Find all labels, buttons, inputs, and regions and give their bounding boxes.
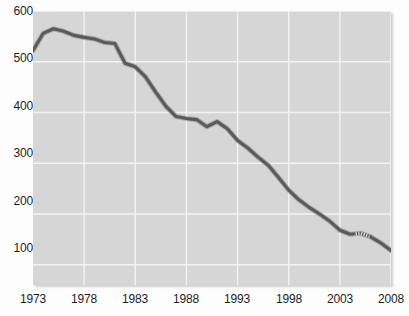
- x-axis-tick-1998: 1998: [267, 292, 311, 306]
- x-axis-tick-1973: 1973: [11, 292, 55, 306]
- y-axis-tick-100: 100: [3, 241, 33, 255]
- plot-svg: [33, 11, 391, 285]
- plot-area: [33, 11, 391, 285]
- y-axis-tick-400: 400: [3, 99, 33, 113]
- vertical-gridlines: [84, 11, 391, 285]
- x-axis-tick-1988: 1988: [164, 292, 208, 306]
- x-axis-tick-1993: 1993: [215, 292, 259, 306]
- x-axis-tick-1978: 1978: [62, 292, 106, 306]
- chart-container: 600 500 400 300 200 100 1973 1978 1983 1…: [0, 0, 409, 316]
- x-axis-tick-2008: 2008: [369, 292, 409, 306]
- y-axis-tick-200: 200: [3, 194, 33, 208]
- y-axis-tick-300: 300: [3, 146, 33, 160]
- x-axis-tick-1983: 1983: [113, 292, 157, 306]
- y-axis-tick-600: 600: [3, 4, 33, 18]
- x-axis-tick-2003: 2003: [318, 292, 362, 306]
- y-axis-tick-500: 500: [3, 51, 33, 65]
